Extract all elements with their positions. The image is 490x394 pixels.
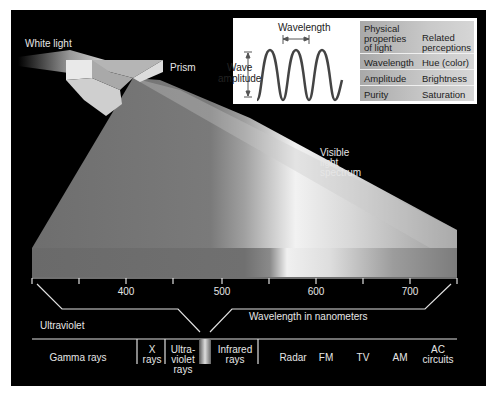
header-perceptions-line-2: perceptions xyxy=(422,43,471,53)
amplitude-label-line-2: amplitude xyxy=(218,73,261,84)
light-spectrum-diagram: White light Prism Visible light spectrum… xyxy=(0,0,490,394)
header-physical: Physical properties of light xyxy=(364,24,406,53)
header-perceptions: Related perceptions xyxy=(422,33,471,52)
sine-wave xyxy=(257,50,342,100)
header-physical-line-3: of light xyxy=(364,43,406,53)
wavelength-label: Wavelength xyxy=(278,22,330,33)
cell-physical: Wavelength xyxy=(364,58,414,68)
table-row: Amplitude Brightness xyxy=(360,69,474,86)
properties-table: Physical properties of light Related per… xyxy=(360,21,474,101)
cell-perception: Hue (color) xyxy=(422,58,469,68)
cell-perception: Brightness xyxy=(422,74,467,84)
cell-perception: Saturation xyxy=(422,90,465,100)
amplitude-label-line-1: Wave xyxy=(218,62,261,73)
amplitude-label: Wave amplitude xyxy=(218,62,261,84)
table-row: Purity Saturation xyxy=(360,85,474,102)
cell-physical: Amplitude xyxy=(364,74,406,84)
table-row: Wavelength Hue (color) xyxy=(360,53,474,70)
cell-physical: Purity xyxy=(364,90,388,100)
